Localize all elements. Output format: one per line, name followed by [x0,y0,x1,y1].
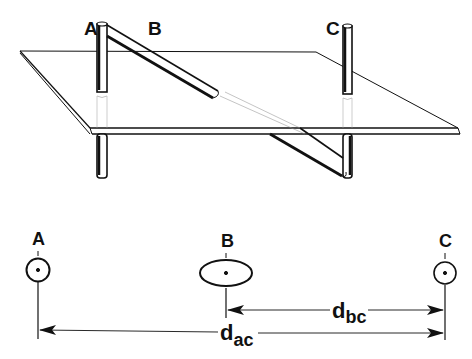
plate [20,51,460,134]
dimension-dbc-label: dbc [332,298,366,327]
rod-b-diagonal [107,25,346,177]
cross-section-b [200,253,252,318]
label-c-bottom: C [439,231,452,251]
label-b-top: B [148,18,162,39]
label-b-bottom: B [221,231,234,251]
rod-c [343,24,352,178]
label-a-top: A [84,18,98,39]
diagram-canvas: A B C A B C dbc dac [0,0,472,359]
dimension-dac-label: dac [220,320,253,350]
cross-section-a [27,251,50,339]
label-c-top: C [326,18,340,39]
diagram-svg: A B C A B C dbc dac [0,0,472,359]
cross-section-c [434,253,456,340]
label-a-bottom: A [32,229,45,249]
rod-a [97,22,107,178]
